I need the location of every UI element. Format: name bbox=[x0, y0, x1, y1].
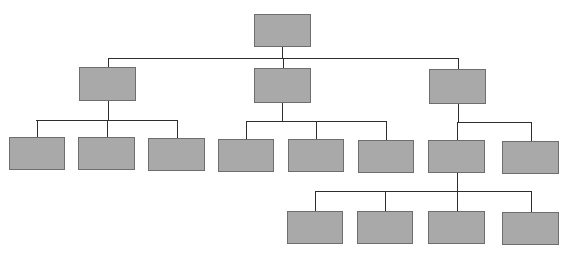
connector-drop bbox=[531, 191, 532, 212]
connector-drop bbox=[246, 121, 247, 139]
connector-drop bbox=[315, 191, 316, 211]
org-node-level-2 bbox=[429, 69, 486, 104]
org-node-level-3 bbox=[9, 137, 65, 170]
connector-drop bbox=[458, 58, 459, 69]
connector-drop bbox=[108, 58, 109, 67]
connector-drop bbox=[457, 122, 458, 140]
org-node-level-3 bbox=[218, 139, 274, 172]
connector-stem bbox=[282, 47, 283, 58]
connector-bus bbox=[315, 191, 531, 192]
org-node-level-3 bbox=[502, 141, 559, 174]
connector-drop bbox=[177, 120, 178, 138]
org-chart-diagram bbox=[0, 0, 569, 253]
org-node-level-2 bbox=[254, 68, 311, 103]
org-node-level-4 bbox=[428, 211, 485, 244]
org-node-level-4 bbox=[287, 211, 343, 244]
org-node-level-3 bbox=[358, 140, 414, 173]
connector-drop bbox=[316, 121, 317, 139]
connector-stem bbox=[282, 103, 283, 121]
connector-drop bbox=[386, 121, 387, 140]
org-node-level-3 bbox=[428, 140, 485, 173]
connector-drop bbox=[457, 191, 458, 211]
connector-drop bbox=[385, 191, 386, 211]
connector-stem bbox=[458, 104, 459, 122]
connector-drop bbox=[37, 120, 38, 137]
connector-stem bbox=[108, 101, 109, 120]
org-node-level-1 bbox=[254, 14, 311, 47]
connector-bus bbox=[458, 122, 531, 123]
connector-drop bbox=[107, 120, 108, 137]
org-node-level-3 bbox=[78, 137, 135, 170]
org-node-level-3 bbox=[148, 138, 205, 171]
org-node-level-3 bbox=[288, 139, 344, 172]
connector-stem bbox=[457, 173, 458, 191]
org-node-level-4 bbox=[502, 212, 559, 245]
connector-drop bbox=[283, 58, 284, 68]
org-node-level-4 bbox=[357, 211, 413, 244]
connector-drop bbox=[531, 122, 532, 141]
org-node-level-2 bbox=[79, 67, 136, 101]
